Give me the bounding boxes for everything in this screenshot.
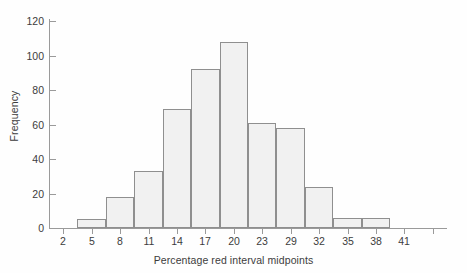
y-axis-tick-label: 60 (4, 120, 44, 131)
x-axis-tick (348, 229, 349, 234)
y-axis-tick-label: 80 (4, 85, 44, 96)
histogram-bar (333, 218, 361, 228)
histogram-bar (276, 128, 304, 228)
histogram-bar (163, 109, 191, 228)
y-axis-tick (50, 194, 56, 195)
x-axis-tick-label: 20 (219, 236, 249, 247)
x-axis-tick-label: 32 (304, 236, 334, 247)
histogram-bar (305, 187, 333, 228)
x-axis-tick-label: 5 (77, 236, 107, 247)
y-axis-tick (50, 90, 56, 91)
x-axis-tick-label: 8 (105, 236, 135, 247)
x-axis-tick (376, 229, 377, 234)
histogram-bar (134, 171, 162, 228)
x-axis-tick-label: 35 (333, 236, 363, 247)
x-axis-line (49, 228, 447, 229)
histogram-bar (106, 197, 134, 228)
y-axis-tick (50, 228, 56, 229)
x-axis-tick-label: 29 (276, 236, 306, 247)
y-axis-tick (50, 21, 56, 22)
x-axis-tick (234, 229, 235, 234)
y-axis-tick (50, 125, 56, 126)
x-axis-tick-label: 41 (389, 236, 419, 247)
x-axis-tick-label: 38 (361, 236, 391, 247)
x-axis-title: Percentage red interval midpoints (0, 254, 467, 266)
histogram-figure: Frequency 020406080100120 25811141720232… (0, 0, 467, 273)
histogram-bar (362, 218, 390, 228)
plot-area (49, 21, 447, 228)
x-axis-tick-label: 14 (162, 236, 192, 247)
x-axis-tick (149, 229, 150, 234)
x-axis-tick (291, 229, 292, 234)
y-axis-tick-label: 20 (4, 189, 44, 200)
y-axis-tick (50, 56, 56, 57)
x-axis-tick-label: 23 (247, 236, 277, 247)
x-axis-tick-label: 17 (190, 236, 220, 247)
x-axis-tick-label: 11 (134, 236, 164, 247)
x-axis-tick (319, 229, 320, 234)
x-axis-tick (120, 229, 121, 234)
histogram-bar (220, 42, 248, 228)
y-axis-tick-labels: 020406080100120 (0, 0, 44, 273)
x-axis-tick-labels: 25811141720232932353841 (0, 236, 467, 250)
x-axis-tick-label: 2 (48, 236, 78, 247)
x-axis-tick (177, 229, 178, 234)
histogram-bar (77, 219, 105, 228)
y-axis-tick-label: 40 (4, 154, 44, 165)
x-axis-tick (433, 229, 434, 234)
y-axis-tick-label: 100 (4, 51, 44, 62)
x-axis-tick (262, 229, 263, 234)
histogram-bar (191, 69, 219, 228)
x-axis-tick (92, 229, 93, 234)
x-axis-tick (205, 229, 206, 234)
x-axis-tick (63, 229, 64, 234)
y-axis-tick-label: 120 (4, 16, 44, 27)
x-axis-tick (404, 229, 405, 234)
histogram-bar (248, 123, 276, 228)
y-axis-tick-label: 0 (4, 223, 44, 234)
y-axis-tick (50, 159, 56, 160)
